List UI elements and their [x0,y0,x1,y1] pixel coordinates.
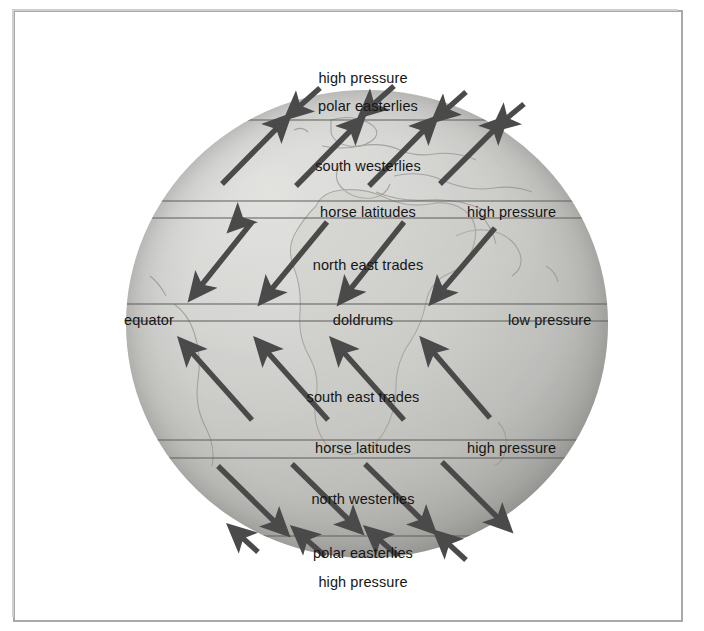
label-equator: equator [124,313,174,328]
label-south-westerlies: south westerlies [315,159,421,174]
label-polar-easterlies-south: polar easterlies [313,546,413,561]
label-doldrums: doldrums [333,313,393,328]
label-horse-latitudes-south: horse latitudes [315,441,411,456]
label-high-pressure-south: high pressure [467,441,556,456]
label-horse-latitudes-north: horse latitudes [320,205,416,220]
label-north-east-trades: north east trades [313,258,424,273]
label-low-pressure: low pressure [508,313,591,328]
label-high-pressure-south-pole: high pressure [318,575,407,590]
label-south-east-trades: south east trades [307,390,420,405]
label-high-pressure-north-pole: high pressure [318,71,407,86]
label-high-pressure-north: high pressure [467,205,556,220]
label-polar-easterlies-north: polar easterlies [318,99,418,114]
label-north-westerlies: north westerlies [311,492,414,507]
